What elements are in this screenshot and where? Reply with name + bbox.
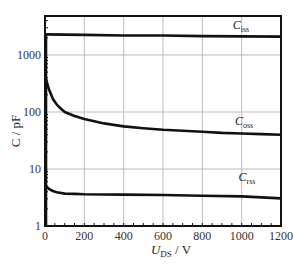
series-line-iss bbox=[45, 34, 281, 36]
x-tick-label: 1200 bbox=[269, 229, 293, 243]
y-tick-label: 1000 bbox=[17, 48, 41, 62]
series-label-rss: Crss bbox=[239, 170, 256, 186]
y-tick-label: 1 bbox=[35, 219, 41, 233]
x-axis-label: UDS / V bbox=[151, 242, 192, 259]
x-axis-tick-labels: 020040060080010001200 bbox=[42, 229, 293, 243]
x-tick-label: 600 bbox=[154, 229, 172, 243]
x-tick-label: 800 bbox=[193, 229, 211, 243]
y-axis-label: C / pF bbox=[8, 115, 23, 148]
x-tick-label: 1000 bbox=[230, 229, 254, 243]
series-label-oss: Coss bbox=[235, 114, 253, 130]
capacitance-chart: 020040060080010001200 1101001000 CissCos… bbox=[0, 0, 294, 266]
y-tick-label: 100 bbox=[23, 105, 41, 119]
x-tick-label: 400 bbox=[115, 229, 133, 243]
y-tick-label: 10 bbox=[29, 162, 41, 176]
series-labels: CissCossCrss bbox=[233, 18, 256, 186]
x-tick-label: 200 bbox=[75, 229, 93, 243]
x-tick-label: 0 bbox=[42, 229, 48, 243]
series-label-iss: Ciss bbox=[233, 18, 249, 34]
